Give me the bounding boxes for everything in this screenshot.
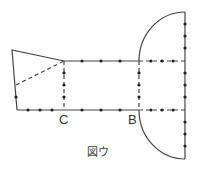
left-piece-outline <box>12 50 64 110</box>
lower-arc <box>139 110 185 159</box>
figure-caption: 図ウ <box>87 147 109 158</box>
upper-arc <box>139 12 185 61</box>
left-diagonal-dashed <box>16 61 64 85</box>
tick-marks <box>14 22 186 147</box>
label-c: C <box>59 113 68 126</box>
label-b: B <box>128 113 137 126</box>
